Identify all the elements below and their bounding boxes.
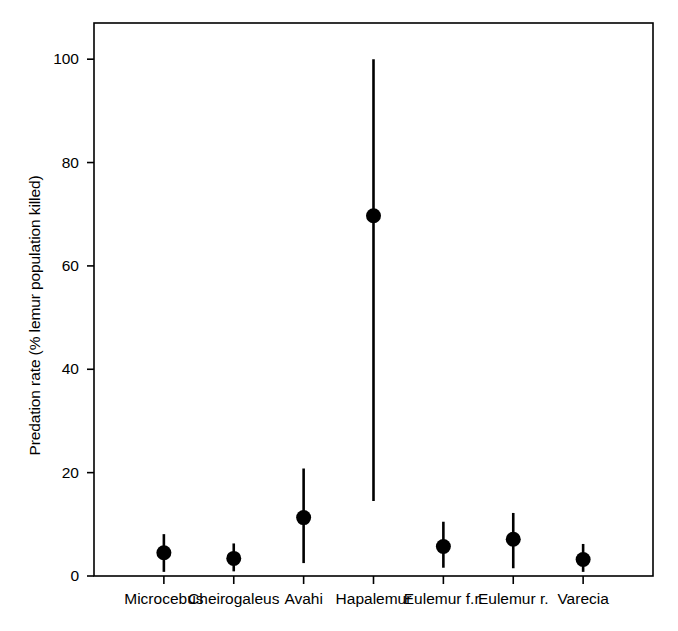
data-point-marker [156,545,171,560]
data-point-marker [506,532,521,547]
x-axis-tick-label: Eulemur r. [478,590,549,608]
y-axis-tick-label: 0 [39,567,79,585]
plot-area [0,0,678,631]
x-axis-tick-label: Varecia [557,590,608,608]
data-point-marker [576,552,591,567]
y-axis-tick-label: 60 [39,257,79,275]
data-point-marker [226,551,241,566]
data-point-marker [296,510,311,525]
y-axis-tick-label: 100 [39,50,79,68]
x-axis-tick-label: Avahi [284,590,323,608]
y-axis-tick-label: 40 [39,360,79,378]
x-axis-tick-label: Cheirogaleus [188,590,279,608]
data-point-marker [366,208,381,223]
y-axis-tick-label: 20 [39,464,79,482]
y-axis-tick-label: 80 [39,154,79,172]
data-point-marker [436,539,451,554]
chart-figure: Predation rate (% lemur population kille… [0,0,678,631]
x-axis-tick-label: Hapalemur [336,590,412,608]
x-axis-tick-label: Eulemur f.r. [404,590,483,608]
